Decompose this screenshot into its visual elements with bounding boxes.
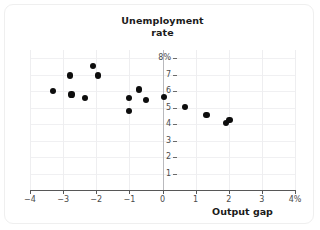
- x-tick-label-1: −3: [46, 195, 80, 204]
- x-tick-label-8: 4%: [278, 195, 312, 204]
- y-tick-3: [173, 124, 177, 125]
- chart-card: Unemployment rate −4−3−2−101234% 1234567…: [4, 4, 314, 224]
- y-tick-label-3: 4: [141, 119, 171, 128]
- y-tick-label-5: 6: [141, 86, 171, 95]
- data-point: [82, 95, 88, 101]
- data-point: [50, 88, 56, 94]
- data-point: [67, 72, 73, 78]
- gridline-x-7: [262, 50, 263, 190]
- x-tick-6: [229, 190, 230, 194]
- y-tick-label-4: 5: [141, 103, 171, 112]
- gridline-x-8: [295, 50, 296, 190]
- x-tick-label-5: 1: [179, 195, 213, 204]
- y-tick-5: [173, 91, 177, 92]
- x-tick-5: [196, 190, 197, 194]
- x-tick-7: [262, 190, 263, 194]
- y-tick-0: [173, 174, 177, 175]
- y-tick-6: [173, 75, 177, 76]
- x-tick-label-3: −1: [112, 195, 146, 204]
- y-tick-label-7: 8%: [141, 53, 171, 62]
- y-tick-label-1: 2: [141, 152, 171, 161]
- data-point: [203, 112, 209, 118]
- x-tick-1: [63, 190, 64, 194]
- data-point: [68, 91, 74, 97]
- data-point: [90, 63, 96, 69]
- y-tick-1: [173, 157, 177, 158]
- data-point: [95, 72, 101, 78]
- y-tick-label-6: 7: [141, 70, 171, 79]
- gridline-x-3: [129, 50, 130, 190]
- x-tick-3: [129, 190, 130, 194]
- data-point: [126, 108, 132, 114]
- x-tick-label-4: 0: [146, 195, 180, 204]
- y-tick-label-0: 1: [141, 169, 171, 178]
- x-tick-8: [295, 190, 296, 194]
- gridline-x-1: [63, 50, 64, 190]
- x-axis-title: Output gap: [190, 206, 295, 217]
- x-tick-4: [163, 190, 164, 194]
- x-tick-label-0: −4: [13, 195, 47, 204]
- data-point: [226, 117, 232, 123]
- chart-title-line-2: rate: [55, 27, 270, 39]
- x-tick-label-2: −2: [79, 195, 113, 204]
- x-tick-2: [96, 190, 97, 194]
- y-tick-label-2: 3: [141, 136, 171, 145]
- x-tick-0: [30, 190, 31, 194]
- data-point: [126, 95, 132, 101]
- x-tick-label-6: 2: [212, 195, 246, 204]
- y-tick-7: [173, 58, 177, 59]
- x-tick-label-7: 3: [245, 195, 279, 204]
- gridline-x-0: [30, 50, 31, 190]
- gridline-x-2: [96, 50, 97, 190]
- gridline-x-5: [196, 50, 197, 190]
- chart-title: Unemployment rate: [55, 15, 270, 38]
- y-tick-4: [173, 108, 177, 109]
- y-tick-2: [173, 141, 177, 142]
- chart-title-line-1: Unemployment: [121, 15, 203, 26]
- data-point: [182, 104, 188, 110]
